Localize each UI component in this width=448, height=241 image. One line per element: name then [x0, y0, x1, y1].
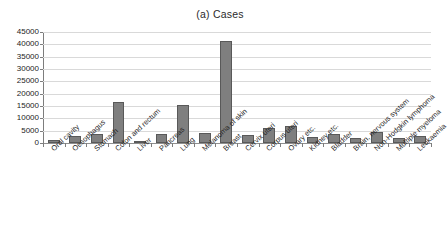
y-tick-label: 35000 — [0, 53, 39, 61]
y-tick-label: 0 — [0, 139, 39, 147]
y-tick-label: 45000 — [0, 28, 39, 36]
y-tick-label: 5000 — [0, 127, 39, 135]
y-tick-label: 20000 — [0, 90, 39, 98]
y-tick-label: 15000 — [0, 102, 39, 110]
chart-title: (a) Cases — [0, 8, 440, 20]
x-axis-category-labels: Oral cavityOesophagusStomachColon and re… — [43, 147, 440, 241]
y-tick-label: 30000 — [0, 65, 39, 73]
y-tick-label: 40000 — [0, 40, 39, 48]
y-axis-tick-labels: 0500010000150002000025000300003500040000… — [0, 32, 39, 143]
y-tick-label: 25000 — [0, 77, 39, 85]
y-tick-label: 10000 — [0, 114, 39, 122]
